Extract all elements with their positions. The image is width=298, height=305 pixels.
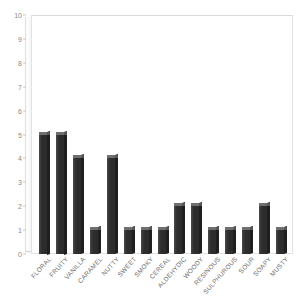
bar[interactable] [259, 206, 267, 254]
bar-slot [105, 15, 121, 254]
bar-slot [71, 15, 87, 254]
y-axis-tick-mark [23, 62, 26, 63]
y-axis-tick-label: 5 [2, 131, 22, 138]
y-axis-tick-label: 7 [2, 83, 22, 90]
bar-top-side-face [182, 203, 185, 206]
bar-top-side-face [233, 227, 236, 230]
bar-top-side-face [267, 203, 270, 206]
bar-side-face [199, 202, 202, 254]
y-axis-tick-mark [23, 38, 26, 39]
bar-side-face [267, 202, 270, 254]
bar[interactable] [242, 230, 250, 254]
bar-slot [274, 15, 290, 254]
bar-top-face [124, 227, 132, 230]
bar-side-face [149, 226, 152, 254]
y-axis-tick-label: 0 [2, 251, 22, 258]
bar-side-face [132, 226, 135, 254]
bar-top-side-face [199, 203, 202, 206]
bar[interactable] [174, 206, 182, 254]
bar-top-side-face [98, 227, 101, 230]
bar[interactable] [39, 135, 47, 255]
bar-top-face [225, 227, 233, 230]
bar-top-face [39, 132, 47, 135]
bar-side-face [115, 154, 118, 254]
bar-slot [139, 15, 155, 254]
x-axis-labels: FLORALFRUITYVANILLACARAMELNUTTYSWEETSMOK… [31, 256, 293, 305]
y-axis-tick-mark [23, 254, 26, 255]
bar[interactable] [73, 158, 81, 254]
bar-top-face [276, 227, 284, 230]
bar-slot [172, 15, 188, 254]
bar-slot [257, 15, 273, 254]
y-axis-tick-mark [23, 110, 26, 111]
y-axis-tick-mark [23, 134, 26, 135]
y-axis-tick-mark [23, 86, 26, 87]
bar-side-face [98, 226, 101, 254]
x-axis-tick-label: SULPHUROUS [203, 256, 239, 295]
y-axis-tick-label: 8 [2, 59, 22, 66]
bar[interactable] [158, 230, 166, 254]
bar-top-side-face [166, 227, 169, 230]
bar-face [276, 230, 284, 254]
y-axis-tick-mark [23, 230, 26, 231]
bar-side-face [182, 202, 185, 254]
bar-top-side-face [284, 227, 287, 230]
bar-face [141, 230, 149, 254]
y-axis-tick-label: 6 [2, 107, 22, 114]
bar-top-face [73, 155, 81, 158]
bar-face [124, 230, 132, 254]
bar[interactable] [90, 230, 98, 254]
bar-face [225, 230, 233, 254]
y-axis-tick-mark [23, 182, 26, 183]
bar-face [73, 158, 81, 254]
bar-top-face [56, 132, 64, 135]
y-axis-tick-mark [23, 206, 26, 207]
bar-side-face [166, 226, 169, 254]
bar[interactable] [208, 230, 216, 254]
bar[interactable] [107, 158, 115, 254]
bar-top-face [259, 203, 267, 206]
bar-side-face [284, 226, 287, 254]
bar[interactable] [276, 230, 284, 254]
x-axis-tick-label: FLORAL [30, 256, 53, 280]
bar-top-face [107, 155, 115, 158]
bar[interactable] [124, 230, 132, 254]
y-axis-tick-mark [23, 15, 26, 16]
y-axis-tick-label: 10 [2, 12, 22, 19]
bar[interactable] [56, 135, 64, 255]
bar-face [107, 158, 115, 254]
bar-top-side-face [64, 132, 67, 135]
bar-top-side-face [115, 155, 118, 158]
bar[interactable] [141, 230, 149, 254]
bar-slot [206, 15, 222, 254]
bar-top-face [191, 203, 199, 206]
bar-top-face [208, 227, 216, 230]
bars-layer [31, 15, 293, 254]
bar-slot [223, 15, 239, 254]
bar-top-side-face [81, 155, 84, 158]
bar-top-face [174, 203, 182, 206]
bar-top-face [158, 227, 166, 230]
y-axis-tick-label: 4 [2, 155, 22, 162]
y-axis-tick-label: 3 [2, 179, 22, 186]
bar-face [56, 135, 64, 255]
bar-side-face [64, 130, 67, 254]
bar-side-face [81, 154, 84, 254]
bar-side-face [250, 226, 253, 254]
bar-face [90, 230, 98, 254]
bar[interactable] [225, 230, 233, 254]
y-axis-tick-label: 9 [2, 35, 22, 42]
y-axis-tick-mark [23, 158, 26, 159]
bar-top-side-face [132, 227, 135, 230]
bar-top-side-face [47, 132, 50, 135]
bar-slot [240, 15, 256, 254]
bar-top-side-face [250, 227, 253, 230]
bar-slot [122, 15, 138, 254]
bar[interactable] [191, 206, 199, 254]
bar-slot [37, 15, 53, 254]
bar-side-face [47, 130, 50, 254]
y-axis-tick-label: 2 [2, 203, 22, 210]
bar-top-face [242, 227, 250, 230]
bar-top-face [141, 227, 149, 230]
bar-face [259, 206, 267, 254]
